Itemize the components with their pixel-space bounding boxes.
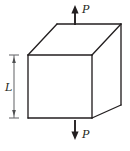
cube-front-face [28,55,92,118]
load-label-bottom: P [81,128,90,141]
load-arrow-bottom [71,120,78,140]
load-arrow-top-head [71,5,78,14]
load-label-top: P [81,3,90,16]
load-arrow-top [71,5,78,25]
dimension-arrowhead-top [12,57,16,63]
dimension-label-L: L [4,81,12,94]
dimension-arrowhead-bottom [12,110,16,116]
cube-load-diagram: P P L [0,0,130,151]
load-arrow-bottom-head [71,132,78,141]
figure-container: P P L [0,0,130,151]
